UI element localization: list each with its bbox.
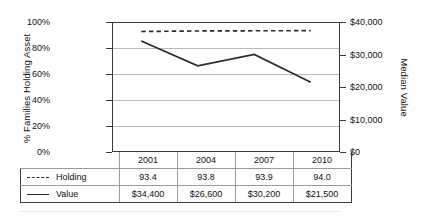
table-header-2010: 2010 xyxy=(293,152,351,169)
table-row: Holding 93.4 93.8 93.9 94.0 xyxy=(21,169,352,186)
cell-holding-2001: 93.4 xyxy=(119,169,177,186)
right-axis-tick-30000: $30,000 xyxy=(350,51,410,60)
series-line-value xyxy=(141,41,311,82)
table-header-2001: 2001 xyxy=(119,152,177,169)
left-axis-tick-100: 100% xyxy=(14,18,50,27)
left-axis-title: % Families Holding Asset xyxy=(21,19,32,159)
left-axis-tick-40: 40% xyxy=(14,96,50,105)
cell-holding-2007: 93.9 xyxy=(235,169,293,186)
cell-holding-2010: 94.0 xyxy=(293,169,351,186)
table-header-2007: 2007 xyxy=(235,152,293,169)
legend-label-value: Value xyxy=(56,189,78,199)
right-axis-tick-20000: $20,000 xyxy=(350,83,410,92)
dashed-line-icon xyxy=(27,177,49,178)
cell-value-2001: $34,400 xyxy=(119,186,177,203)
cell-value-2010: $21,500 xyxy=(293,186,351,203)
cell-value-2004: $26,600 xyxy=(177,186,235,203)
chart-figure: % Families Holding Asset Median Value 10… xyxy=(0,0,424,217)
table-header-2004: 2004 xyxy=(177,152,235,169)
series-canvas xyxy=(113,23,339,151)
right-tick-mark xyxy=(340,22,346,23)
left-axis-tick-60: 60% xyxy=(14,70,50,79)
data-table: 2001 2004 2007 2010 Holding 93.4 93.8 93… xyxy=(20,152,340,203)
cell-holding-2004: 93.8 xyxy=(177,169,235,186)
left-axis-tick-20: 20% xyxy=(14,122,50,131)
right-tick-mark xyxy=(340,87,346,88)
left-axis-tick-80: 80% xyxy=(14,44,50,53)
right-tick-mark xyxy=(340,55,346,56)
legend-item-holding: Holding xyxy=(21,169,120,186)
table-header-row: 2001 2004 2007 2010 xyxy=(21,152,352,169)
right-axis-tick-0: $0 xyxy=(350,148,410,157)
legend-item-value: Value xyxy=(21,186,120,203)
plot-area xyxy=(112,22,340,152)
table-row: Value $34,400 $26,600 $30,200 $21,500 xyxy=(21,186,352,203)
right-axis-tick-10000: $10,000 xyxy=(350,116,410,125)
table-corner-cell xyxy=(21,152,120,169)
legend-label-holding: Holding xyxy=(56,172,87,182)
cell-value-2007: $30,200 xyxy=(235,186,293,203)
right-tick-mark xyxy=(340,120,346,121)
bottom-rule xyxy=(20,211,340,212)
series-line-holding xyxy=(141,31,311,32)
solid-line-icon xyxy=(27,194,49,195)
right-axis-tick-40000: $40,000 xyxy=(350,18,410,27)
